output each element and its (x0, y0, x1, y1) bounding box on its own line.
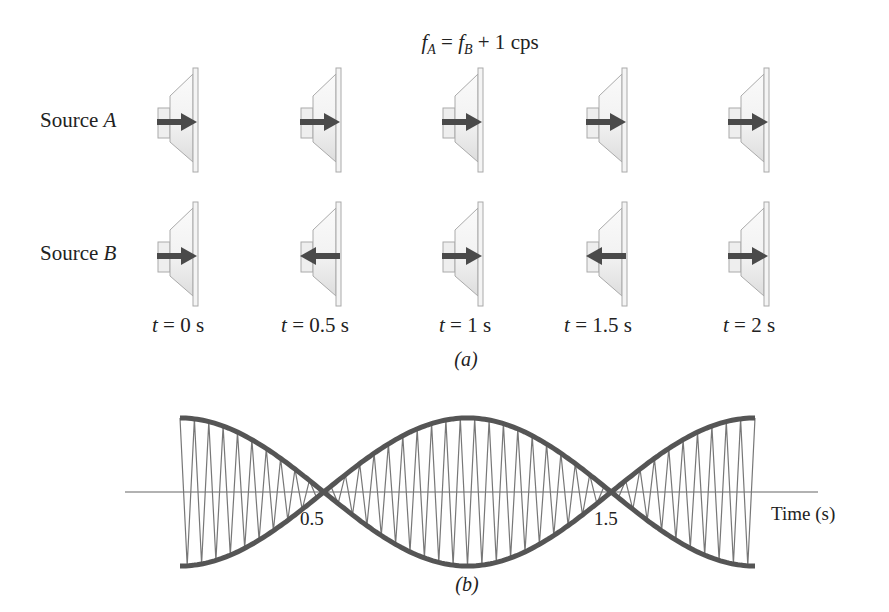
beat-waveform-graph (0, 0, 889, 612)
caption-b: (b) (447, 573, 487, 596)
tick-1-5: 1.5 (594, 508, 618, 530)
x-axis-label: Time (s) (771, 503, 835, 525)
tick-0-5: 0.5 (300, 508, 324, 530)
